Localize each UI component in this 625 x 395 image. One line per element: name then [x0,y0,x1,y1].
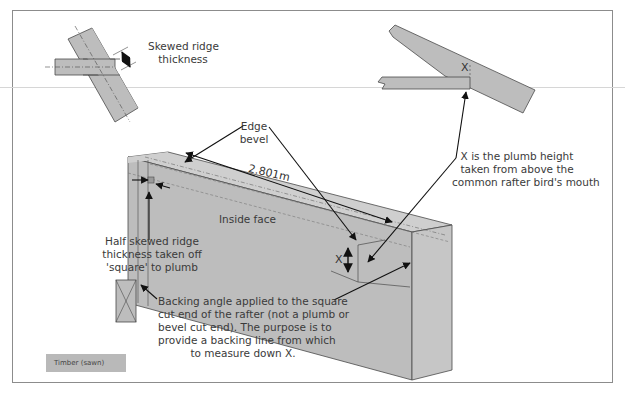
label-line: to measure down X. [158,347,328,360]
label-line: Backing angle applied to the square [158,295,328,308]
plumb-height-note: X is the plumb height taken from above t… [452,150,582,189]
label-line: bevel cut end). The purpose is to [158,321,328,334]
x-marker-birds-mouth: X [461,61,469,74]
label-line: thickness taken off [98,248,206,261]
half-skewed-ridge-label: Half skewed ridge thickness taken off 's… [98,235,206,274]
label-line: 'square' to plumb [98,261,206,274]
backing-angle-note: Backing angle applied to the square cut … [158,295,328,360]
legend-timber-sawn: Timber (sawn) [46,354,126,372]
label-line: taken from above the [452,163,582,176]
label-line: bevel [236,133,272,146]
label-line: provide a backing line from which [158,334,328,347]
edge-bevel-label: Edge bevel [236,120,272,146]
label-line: X is the plumb height [452,150,582,163]
label-line: Edge [236,120,272,133]
label-line: Skewed ridge [148,40,218,53]
x-marker-rafter: X [335,253,343,266]
backing-angle-sketch [116,280,136,322]
label-line: cut end of the rafter (not a plumb or [158,308,328,321]
skewed-ridge-thickness-label: Skewed ridge thickness [148,40,218,66]
label-line: common rafter bird's mouth [452,176,582,189]
inside-face-label: Inside face [219,213,276,226]
label-line: Half skewed ridge [98,235,206,248]
birds-mouth-detail [378,25,535,113]
skewed-ridge-plan-detail [45,26,138,122]
label-line: thickness [148,53,218,66]
